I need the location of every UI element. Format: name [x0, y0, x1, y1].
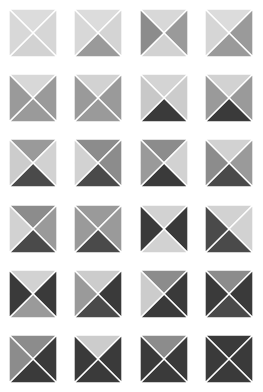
pyramid-tile [74, 270, 122, 318]
tile-facets [9, 205, 57, 253]
pyramid-tile [74, 74, 122, 122]
tile-facets [9, 335, 57, 383]
grid-cell [197, 131, 263, 196]
grid-cell [131, 65, 197, 130]
tile-facets [74, 335, 122, 383]
grid-cell [0, 327, 66, 392]
grid-cell [131, 327, 197, 392]
tile-facets [9, 74, 57, 122]
grid-cell [0, 0, 66, 65]
pyramid-tile [140, 9, 188, 57]
grid-cell [66, 65, 132, 130]
tile-facets [74, 270, 122, 318]
pyramid-tile [140, 335, 188, 383]
pyramid-tile [205, 270, 253, 318]
grid-cell [131, 0, 197, 65]
grid-cell [66, 196, 132, 261]
grid-cell [131, 261, 197, 326]
pyramid-tile [74, 205, 122, 253]
pyramid-tile [9, 74, 57, 122]
tile-facets [205, 9, 253, 57]
grid-cell [0, 65, 66, 130]
pyramid-tile [9, 205, 57, 253]
tile-facets [205, 139, 253, 187]
grid-cell [0, 131, 66, 196]
pyramid-tile [140, 139, 188, 187]
pyramid-tile [205, 9, 253, 57]
tile-facets [9, 270, 57, 318]
tile-facets [74, 205, 122, 253]
pyramid-tile [9, 270, 57, 318]
grid-cell [197, 327, 263, 392]
tile-facets [140, 74, 188, 122]
tile-facets [140, 139, 188, 187]
grid-cell [197, 261, 263, 326]
tile-facets [74, 139, 122, 187]
grid-cell [131, 131, 197, 196]
pyramid-tile [140, 205, 188, 253]
grid-cell [0, 196, 66, 261]
grid-cell [131, 196, 197, 261]
tile-facets [140, 205, 188, 253]
tile-facets [205, 270, 253, 318]
tile-facets [9, 9, 57, 57]
grid-cell [66, 0, 132, 65]
tile-facets [140, 9, 188, 57]
grid-cell [197, 0, 263, 65]
pyramid-tile [140, 74, 188, 122]
tile-facets [140, 270, 188, 318]
tile-facets [205, 335, 253, 383]
grid-cell [0, 261, 66, 326]
grid-cell [197, 196, 263, 261]
pyramid-tile [9, 139, 57, 187]
grid-cell [66, 261, 132, 326]
tile-grid [0, 0, 262, 392]
grid-cell [66, 131, 132, 196]
tile-facets [205, 74, 253, 122]
pyramid-tile [9, 335, 57, 383]
pyramid-tile [205, 139, 253, 187]
pyramid-tile [140, 270, 188, 318]
tile-facets [74, 74, 122, 122]
pyramid-tile [74, 9, 122, 57]
grid-cell [66, 327, 132, 392]
pyramid-tile [205, 205, 253, 253]
tile-facets [140, 335, 188, 383]
tile-facets [9, 139, 57, 187]
tile-facets [74, 9, 122, 57]
pyramid-tile [74, 139, 122, 187]
pyramid-tile [9, 9, 57, 57]
pyramid-tile [74, 335, 122, 383]
pyramid-tile [205, 74, 253, 122]
grid-cell [197, 65, 263, 130]
pyramid-tile [205, 335, 253, 383]
tile-facets [205, 205, 253, 253]
